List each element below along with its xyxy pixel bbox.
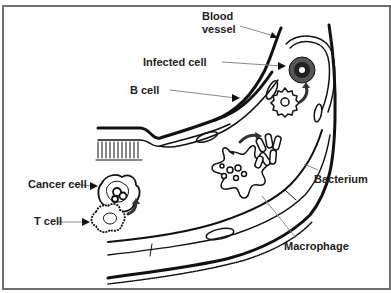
label-blood-vessel: Blood vessel xyxy=(202,10,236,36)
bacteria xyxy=(254,134,282,169)
label-t-cell: T cell xyxy=(34,215,62,228)
label-blood-vessel-line2: vessel xyxy=(202,23,236,36)
label-cancer-cell: Cancer cell xyxy=(28,178,87,191)
label-bacterium: Bacterium xyxy=(314,173,368,186)
label-infected-cell: Infected cell xyxy=(143,56,207,69)
label-blood-vessel-line1: Blood xyxy=(202,10,236,23)
label-b-cell: B cell xyxy=(130,84,159,97)
label-macrophage: Macrophage xyxy=(284,240,349,253)
infected-cell xyxy=(289,57,315,83)
